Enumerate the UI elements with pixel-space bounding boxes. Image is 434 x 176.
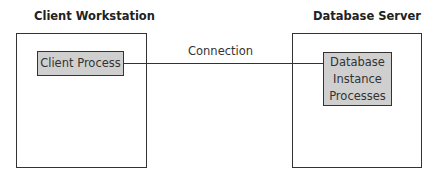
- db-process-line-3: Processes: [329, 88, 386, 105]
- database-instance-processes-box: Database Instance Processes: [323, 52, 392, 106]
- client-process-box: Client Process: [37, 51, 124, 76]
- db-process-line-2: Instance: [333, 71, 382, 88]
- connection-line: [123, 63, 324, 65]
- client-process-label: Client Process: [40, 55, 121, 72]
- database-server-title: Database Server: [313, 9, 421, 23]
- connection-label: Connection: [188, 44, 253, 58]
- client-workstation-title: Client Workstation: [34, 9, 155, 23]
- db-process-line-1: Database: [330, 54, 385, 71]
